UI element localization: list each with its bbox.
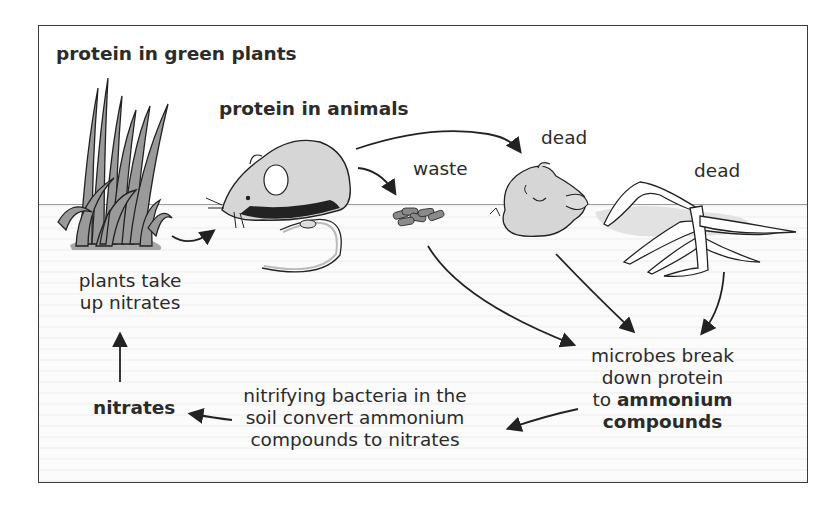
label-nitrates: nitrates [93, 397, 175, 419]
label-waste: waste [413, 158, 468, 180]
nitrifying-line3: compounds to nitrates [240, 429, 470, 451]
microbes-line3-prefix: to [592, 389, 611, 410]
arrow-animals-to-waste [358, 168, 394, 192]
arrow-waste-to-microbes [428, 246, 572, 344]
waste-pellets-icon [392, 208, 444, 226]
label-plants-take-up-nitrates: plants take up nitrates [70, 270, 190, 314]
arrow-deadmouse-to-microbes [556, 254, 632, 330]
nitrifying-line2: soil convert ammonium [240, 407, 470, 429]
microbes-line2: down protein [580, 367, 745, 389]
microbes-line1: microbes break [580, 345, 745, 367]
arrow-microbes-to-nitrifying [510, 409, 578, 428]
dead-plant-icon [595, 182, 796, 276]
label-protein-in-green-plants: protein in green plants [56, 43, 297, 65]
microbes-line3-bold: ammonium [617, 389, 733, 410]
plants-take-up-line2: up nitrates [70, 292, 190, 314]
label-dead-animal: dead [541, 127, 587, 149]
microbes-line4-bold: compounds [603, 411, 723, 432]
label-nitrifying-bacteria: nitrifying bacteria in the soil convert … [240, 385, 470, 451]
dead-mouse-icon [490, 163, 588, 237]
label-dead-plant: dead [694, 160, 740, 182]
arrow-deadplant-to-microbes [703, 272, 724, 332]
grass-clump-icon [58, 78, 172, 250]
nitrifying-line1: nitrifying bacteria in the [240, 385, 470, 407]
label-protein-in-animals: protein in animals [219, 98, 408, 120]
mouse-icon [206, 140, 350, 272]
arrow-animals-to-dead [356, 131, 519, 150]
label-microbes-break-down-protein: microbes break down protein to ammonium … [580, 345, 745, 433]
plants-take-up-line1: plants take [70, 270, 190, 292]
arrow-nitrifying-to-nitrates [192, 414, 232, 420]
microbes-line3: to ammonium [580, 389, 745, 411]
arrow-plants-to-animals [172, 232, 212, 241]
